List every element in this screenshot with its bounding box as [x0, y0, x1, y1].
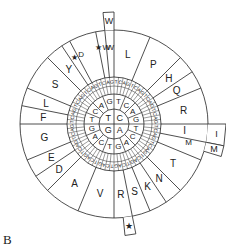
amino-acid-label: Q: [173, 85, 181, 96]
amino-acid-label: A: [71, 178, 78, 189]
amino-acid-label: G: [40, 132, 48, 143]
amino-acid-label: N: [155, 173, 162, 184]
base-ring2: A: [93, 132, 99, 141]
amino-acid-label: H: [165, 73, 172, 84]
amino-acid-label: V: [97, 188, 104, 199]
divider: [27, 88, 70, 106]
amino-acid-label: D: [55, 164, 62, 175]
amino-acid-label: I: [183, 125, 186, 136]
base-ring2: G: [133, 115, 139, 124]
amino-acid-label: L: [43, 98, 49, 109]
base-ring2: C: [130, 132, 136, 141]
divider: [96, 32, 105, 78]
base-ring2: T: [107, 142, 112, 151]
panel-label: B: [3, 232, 12, 248]
amino-acid-label: S: [52, 79, 59, 90]
amino-acid-label: T: [170, 158, 176, 169]
amino-acid-label: R: [180, 105, 187, 116]
amino-acid-label: L: [125, 49, 131, 60]
amino-acid-label: S: [131, 186, 138, 197]
amino-acid-label: K: [144, 181, 151, 192]
base-ring1: A: [117, 125, 123, 135]
base-ring2: G: [89, 124, 95, 133]
outer-tab-label: M: [210, 144, 218, 154]
base-ring1: C: [117, 113, 124, 123]
divider: [132, 37, 150, 80]
amino-acid-label: E: [48, 152, 55, 163]
outer-tab-label: I: [215, 129, 218, 139]
base-ring2: G: [106, 97, 112, 106]
genetic-code-wheel: TCAGTCAGTCAGTCAGTCAGTCAGTCAGTCAGTCAGTCAG…: [0, 0, 226, 248]
amino-acid-label: F: [40, 112, 46, 123]
base-ring2: C: [124, 101, 130, 110]
amino-acid-label: D: [78, 50, 84, 59]
divider: [105, 30, 110, 77]
base-ring2: A: [124, 138, 130, 147]
outer-tab-label: ★: [125, 221, 133, 231]
base-ring3: G: [68, 124, 74, 128]
base-ring2: T: [89, 115, 94, 124]
base-ring2: C: [99, 138, 105, 147]
amino-acid-label: Y: [66, 64, 73, 75]
base-ring2: T: [116, 97, 121, 106]
base-ring2: A: [99, 101, 105, 110]
base-ring2: G: [115, 142, 121, 151]
amino-acid-label: M: [185, 138, 192, 147]
amino-acid-label: W: [106, 43, 114, 52]
divider: [157, 142, 200, 160]
base-ring2: C: [92, 107, 98, 116]
base-ring1: T: [105, 113, 111, 123]
amino-acid-label: R: [117, 189, 124, 200]
outer-tab-label: W: [105, 16, 114, 26]
divider: [78, 167, 96, 210]
amino-acid-label: P: [150, 59, 157, 70]
base-ring1: G: [105, 125, 112, 135]
